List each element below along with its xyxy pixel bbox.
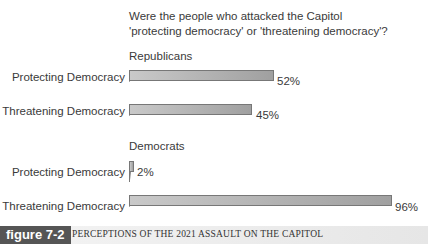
- caption-text: PERCEPTIONS OF THE 2021 ASSAULT ON THE C…: [72, 229, 323, 239]
- row-label: Protecting Democracy: [12, 71, 125, 83]
- value-label: 45%: [256, 109, 279, 121]
- bar-democrats-protecting: [129, 161, 134, 183]
- bar-democrats-threatening: [129, 195, 392, 217]
- row-label: Threatening Democracy: [2, 200, 125, 212]
- value-label: 52%: [277, 75, 300, 87]
- group-label-democrats: Democrats: [129, 140, 185, 152]
- value-label: 2%: [137, 166, 154, 178]
- bar-republicans-protecting: [129, 70, 274, 92]
- figure-caption: figure 7-2 PERCEPTIONS OF THE 2021 ASSAU…: [0, 226, 428, 244]
- value-label: 96%: [395, 201, 418, 213]
- row-label: Threatening Democracy: [2, 105, 125, 117]
- row-label: Protecting Democracy: [12, 166, 125, 178]
- group-label-republicans: Republicans: [129, 50, 192, 62]
- figure-number: figure 7-2: [0, 226, 71, 244]
- bar-republicans-threatening: [129, 104, 252, 126]
- title-line-2: 'protecting democracy' or 'threatening d…: [129, 24, 388, 39]
- chart-title: Were the people who attacked the Capitol…: [129, 9, 388, 39]
- title-line-1: Were the people who attacked the Capitol: [129, 9, 388, 24]
